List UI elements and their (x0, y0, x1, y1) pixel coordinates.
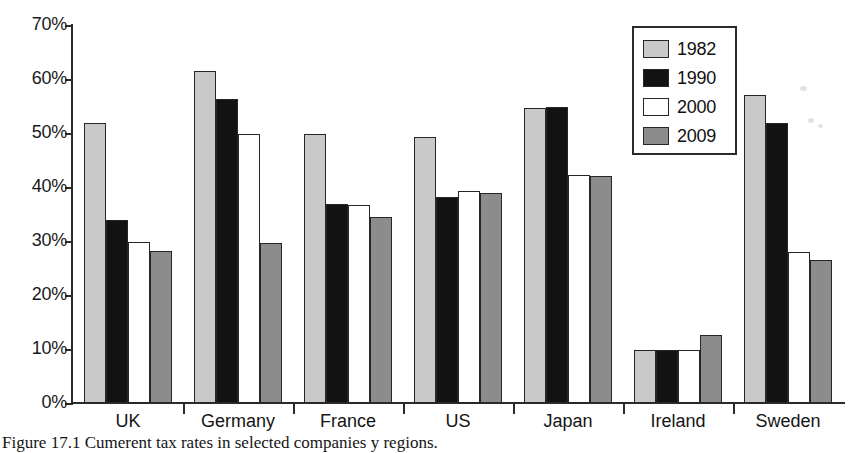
legend-item-2000: 2000 (643, 92, 735, 121)
legend-label: 2000 (677, 98, 716, 116)
y-axis-tick-label: 0% (42, 392, 67, 412)
x-axis-label-germany: Germany (183, 410, 293, 432)
bar-germany-1982 (194, 71, 216, 403)
bar-ireland-1982 (634, 350, 656, 403)
x-axis-label-japan: Japan (513, 410, 623, 432)
x-axis-label-france: France (293, 410, 403, 432)
x-axis-label-ireland: Ireland (623, 410, 733, 432)
bar-japan-1982 (524, 108, 546, 403)
bar-france-1982 (304, 134, 326, 403)
bar-group (293, 25, 403, 403)
chart-legend: 1982199020002009 (632, 26, 737, 155)
legend-item-2009: 2009 (643, 121, 735, 150)
bar-ireland-1990 (656, 350, 678, 403)
bar-uk-1990 (106, 220, 128, 403)
bar-group (183, 25, 293, 403)
legend-swatch-icon (643, 40, 669, 58)
bar-sweden-2009 (810, 260, 832, 403)
y-axis-tick-label: 20% (32, 284, 67, 304)
y-axis-tick-label: 10% (32, 338, 67, 358)
bar-france-1990 (326, 204, 348, 403)
x-axis-label-uk: UK (73, 410, 183, 432)
bar-group (403, 25, 513, 403)
bar-germany-2009 (260, 243, 282, 403)
bar-sweden-2000 (788, 252, 810, 403)
y-axis-tick-label: 60% (32, 68, 67, 88)
bar-germany-2000 (238, 134, 260, 403)
y-axis-tick-label: 70% (32, 14, 67, 34)
legend-item-1982: 1982 (643, 34, 735, 63)
bar-sweden-1982 (744, 95, 766, 403)
scan-speckle (800, 86, 807, 91)
bar-us-2009 (480, 193, 502, 403)
legend-swatch-icon (643, 98, 669, 116)
bar-us-2000 (458, 191, 480, 403)
y-axis-tick-label: 30% (32, 230, 67, 250)
bar-uk-1982 (84, 123, 106, 403)
legend-swatch-icon (643, 69, 669, 87)
legend-swatch-icon (643, 127, 669, 145)
bar-japan-2000 (568, 175, 590, 403)
scan-speckle (818, 124, 823, 128)
bar-ireland-2000 (678, 350, 700, 403)
bar-japan-2009 (590, 176, 612, 403)
bar-us-1982 (414, 137, 436, 403)
bar-france-2000 (348, 205, 370, 403)
bar-germany-1990 (216, 99, 238, 403)
bar-group (513, 25, 623, 403)
legend-label: 2009 (677, 127, 716, 145)
bar-uk-2009 (150, 251, 172, 403)
bar-sweden-1990 (766, 123, 788, 403)
scan-speckle (808, 118, 814, 123)
y-axis-tick-label: 40% (32, 176, 67, 196)
x-axis-label-sweden: Sweden (733, 410, 843, 432)
bar-group (73, 25, 183, 403)
x-axis-label-us: US (403, 410, 513, 432)
legend-label: 1990 (677, 69, 716, 87)
bar-france-2009 (370, 217, 392, 403)
bar-us-1990 (436, 197, 458, 403)
y-axis-tick-label: 50% (32, 122, 67, 142)
bar-japan-1990 (546, 107, 568, 403)
legend-item-1990: 1990 (643, 63, 735, 92)
bar-group (733, 25, 843, 403)
bar-uk-2000 (128, 242, 150, 403)
legend-label: 1982 (677, 40, 716, 58)
bar-ireland-2009 (700, 335, 722, 403)
figure-caption: Figure 17.1 Cumerent tax rates in select… (2, 433, 858, 453)
